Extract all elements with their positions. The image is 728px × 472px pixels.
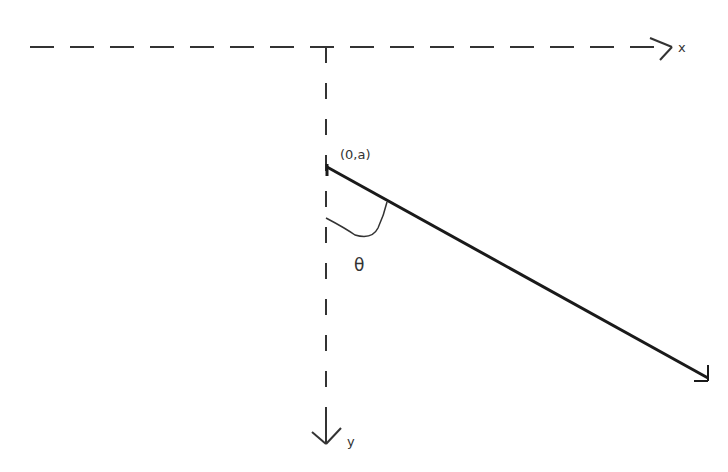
x-axis-arrow-icon	[650, 38, 672, 60]
y-axis-arrow-icon	[312, 418, 341, 444]
slanted-line	[327, 167, 708, 378]
angle-label: θ	[354, 255, 364, 275]
x-axis-label: x	[678, 40, 686, 55]
angle-arc	[326, 202, 387, 236]
y-axis-label: y	[347, 434, 355, 449]
diagram-canvas: x y (0,a) θ	[0, 0, 728, 472]
point-label: (0,a)	[340, 147, 371, 162]
